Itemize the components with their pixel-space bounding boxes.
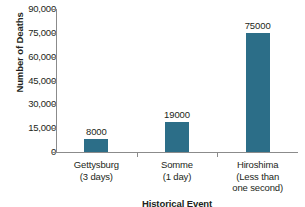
bar-value-label: 8000 (61, 126, 131, 137)
bar[interactable] (165, 122, 189, 152)
bar-value-label: 75000 (223, 20, 293, 31)
x-axis-category-label: Hiroshima(Less thanone second) (217, 159, 298, 194)
bar-value-label: 19000 (142, 109, 212, 120)
x-axis-category-label-line: Somme (137, 159, 218, 171)
y-axis-tick-label: 15,000 (10, 123, 56, 133)
y-axis-tick-label: 0 (10, 147, 56, 157)
x-axis-line (56, 152, 298, 153)
x-axis-category-label-line: (Less than (217, 171, 298, 183)
x-axis-category-label-line: (1 day) (137, 171, 218, 183)
x-axis-category-label-line: one second) (217, 182, 298, 194)
y-axis-tick-label: 30,000 (10, 99, 56, 109)
x-axis-category-label-line: Gettysburg (56, 159, 137, 171)
x-axis-title: Historical Event (56, 198, 298, 207)
x-axis-category-tick (217, 152, 218, 157)
x-axis-category-label-line: (3 days) (56, 171, 137, 183)
y-axis-tick-label: 90,000 (10, 4, 56, 14)
bar-chart: Number of Deaths 90,00075,00060,00045,00… (0, 0, 305, 207)
y-axis-tick-label: 75,000 (10, 28, 56, 38)
y-axis-tick-label: 45,000 (10, 76, 56, 86)
x-axis-category-label: Somme(1 day) (137, 159, 218, 182)
x-axis-category-label: Gettysburg(3 days) (56, 159, 137, 182)
bar[interactable] (84, 139, 108, 152)
bar[interactable] (246, 33, 270, 152)
x-axis-category-tick (137, 152, 138, 157)
x-axis-category-label-line: Hiroshima (217, 159, 298, 171)
y-axis-tick-label: 60,000 (10, 52, 56, 62)
